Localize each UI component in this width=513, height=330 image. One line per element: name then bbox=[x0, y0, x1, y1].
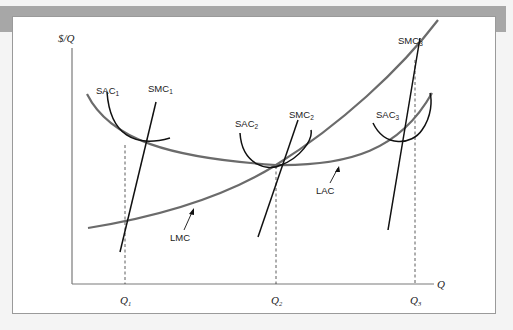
sac1-label: SAC1 bbox=[96, 85, 120, 97]
smc1-label: SMC1 bbox=[148, 83, 173, 95]
smc3-label: SMC3 bbox=[398, 35, 423, 47]
sac1-curve bbox=[107, 92, 170, 141]
q1-label: Q1 bbox=[120, 294, 131, 307]
smc2-label: SMC2 bbox=[289, 109, 314, 121]
q2-label: Q2 bbox=[271, 294, 283, 307]
smc2-line bbox=[258, 120, 298, 237]
smc1-line bbox=[120, 102, 156, 252]
lmc-label: LMC bbox=[170, 232, 190, 243]
y-axis-label: $/Q bbox=[58, 32, 75, 44]
sac3-label: SAC3 bbox=[376, 109, 400, 121]
lmc-curve bbox=[88, 20, 438, 228]
lac-curve bbox=[87, 93, 432, 165]
lmc-arrowhead-icon bbox=[189, 208, 194, 215]
x-axis-label: Q bbox=[437, 278, 445, 290]
q3-label: Q3 bbox=[410, 294, 422, 307]
sac2-label: SAC2 bbox=[235, 118, 259, 130]
lac-arrowhead-icon bbox=[335, 166, 340, 172]
lac-label: LAC bbox=[316, 185, 335, 196]
cost-curves-diagram: $/Q Q Q1 Q2 Q3 SAC1 SMC1 SAC2 SMC2 SAC3 … bbox=[0, 0, 513, 330]
